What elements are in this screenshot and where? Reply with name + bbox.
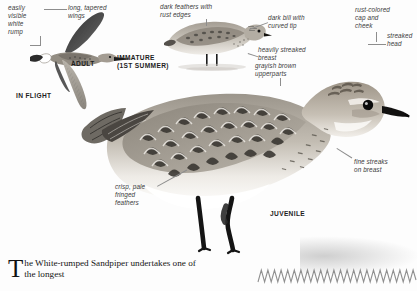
leader-rust-edges (206, 19, 207, 26)
annotation-tapered-wings: long, tapered wings (68, 4, 130, 20)
caption-juvenile: JUVENILE (270, 210, 305, 218)
annotation-upperparts: grayish brown upperparts (255, 62, 317, 78)
annotation-rust-edges: dark feathers with rust edges (160, 3, 240, 19)
leader-white-rump (40, 36, 41, 45)
leader-upperparts (280, 78, 281, 86)
leader-white-rump-h (30, 45, 41, 46)
annotation-streaked-head: streaked head (387, 32, 417, 48)
annotation-dark-bill: dark bill with curved tip (268, 14, 330, 30)
leader-rust-cap (376, 32, 377, 42)
article-body: The White-rumped Sandpiper undertakes on… (8, 258, 208, 281)
annotation-fine-streaks: fine streaks on breast (354, 158, 412, 174)
annotation-streaked-breast: heavily streaked breast (258, 46, 324, 62)
annotation-white-rump: easily visible white rump (8, 4, 48, 36)
annotation-rust-cap: rust-colored cap and cheek (355, 6, 411, 30)
annotation-fringed-feathers: crisp, pale fringed feathers (115, 183, 161, 207)
caption-in-flight: IN FLIGHT (16, 92, 51, 100)
leader-streaked-head (368, 44, 386, 45)
drop-cap: T (8, 259, 23, 279)
leader-tapered-wings (44, 9, 67, 10)
article-body-text: he White-rumped Sandpiper undertakes one… (24, 258, 196, 279)
shadow-wash (300, 236, 420, 276)
